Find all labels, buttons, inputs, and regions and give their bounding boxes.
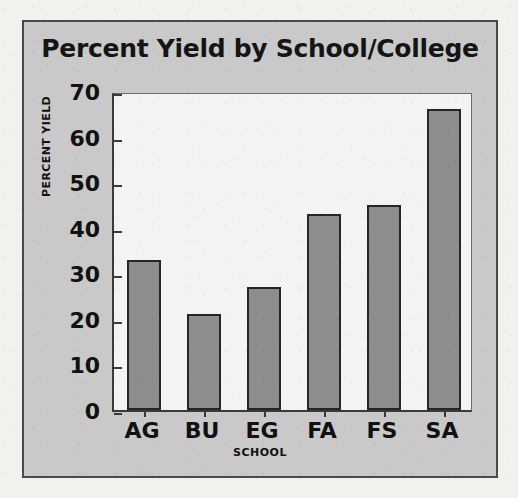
x-axis-tick-mark (204, 410, 206, 417)
y-axis-tick-label: 10 (52, 355, 100, 377)
x-axis-title: SCHOOL (24, 446, 496, 459)
bar[interactable] (127, 260, 161, 410)
x-axis-tick-mark (324, 410, 326, 417)
bar[interactable] (247, 287, 281, 410)
y-axis-tick-label: 50 (52, 173, 100, 195)
y-axis-tick-label: 70 (52, 82, 100, 104)
y-axis-tick-label: 60 (52, 128, 100, 150)
bar[interactable] (187, 314, 221, 410)
x-axis-tick-label: FS (367, 418, 398, 443)
bar[interactable] (307, 214, 341, 410)
x-axis-tick-label: BU (185, 418, 220, 443)
y-axis-tick-mark (114, 185, 122, 187)
x-axis-tick-mark (144, 410, 146, 417)
y-axis-tick-mark (114, 276, 122, 278)
chart-panel: Percent Yield by School/College PERCENT … (22, 20, 498, 478)
y-axis-tick-label: 0 (52, 401, 100, 423)
x-axis-tick-mark (264, 410, 266, 417)
x-axis-tick-mark (444, 410, 446, 417)
x-axis-tick-label: AG (124, 418, 159, 443)
y-axis-tick-mark (114, 140, 122, 142)
y-axis-tick-mark (114, 322, 122, 324)
y-axis-tick-mark (114, 367, 122, 369)
plot-area (112, 93, 472, 412)
x-axis-tick-label: EG (245, 418, 278, 443)
bar[interactable] (427, 109, 461, 410)
y-axis-tick-mark (114, 413, 122, 415)
x-axis-tick-mark (384, 410, 386, 417)
bar[interactable] (367, 205, 401, 410)
x-axis-tick-label: SA (426, 418, 459, 443)
y-axis-tick-mark (114, 231, 122, 233)
y-axis-tick-label: 30 (52, 264, 100, 286)
y-axis-tick-label: 40 (52, 219, 100, 241)
chart-title: Percent Yield by School/College (24, 34, 496, 63)
y-axis-tick-mark (114, 94, 122, 96)
y-axis-tick-label: 20 (52, 310, 100, 332)
x-axis-tick-label: FA (307, 418, 337, 443)
